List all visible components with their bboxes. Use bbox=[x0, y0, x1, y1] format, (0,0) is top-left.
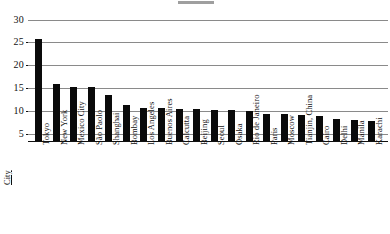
x-axis-category-labels: TokyoNew YorkMexico CitySão PaoloShangha… bbox=[0, 0, 390, 234]
x-axis-category-label: Los Angeles bbox=[147, 102, 156, 145]
x-axis-category-label: Paris bbox=[270, 128, 279, 146]
x-axis-category-label: Tianjin, China bbox=[305, 95, 314, 145]
x-axis-category-label: Manila bbox=[357, 120, 366, 145]
x-axis-title: City bbox=[3, 170, 12, 185]
x-axis-category-label: Osaka bbox=[235, 123, 244, 145]
x-axis-category-label: Delhi bbox=[340, 126, 349, 145]
x-axis-category-label: Seoul bbox=[217, 125, 226, 145]
x-axis-category-label: Shanghai bbox=[112, 113, 121, 145]
x-axis-category-label: Bombay bbox=[130, 116, 139, 145]
x-axis-category-label: Cairo bbox=[322, 126, 331, 145]
x-axis-category-label: New York bbox=[60, 110, 69, 145]
x-axis-category-label: Buenos Aires bbox=[165, 98, 174, 145]
x-axis-category-label: Beijing bbox=[200, 119, 209, 145]
x-axis-category-label: Moscow bbox=[287, 115, 296, 145]
x-axis-category-label: Rio de Janeiro bbox=[252, 95, 261, 146]
x-axis-category-label: São Paolo bbox=[95, 110, 104, 145]
x-axis-category-label: Karachi bbox=[375, 117, 384, 145]
x-axis-category-label: Tokyo bbox=[42, 123, 51, 145]
bar-chart: 51015202530 TokyoNew YorkMexico CitySão … bbox=[0, 0, 390, 234]
x-axis-category-label: Calcutta bbox=[182, 116, 191, 145]
x-axis-category-label: Mexico City bbox=[77, 101, 86, 145]
